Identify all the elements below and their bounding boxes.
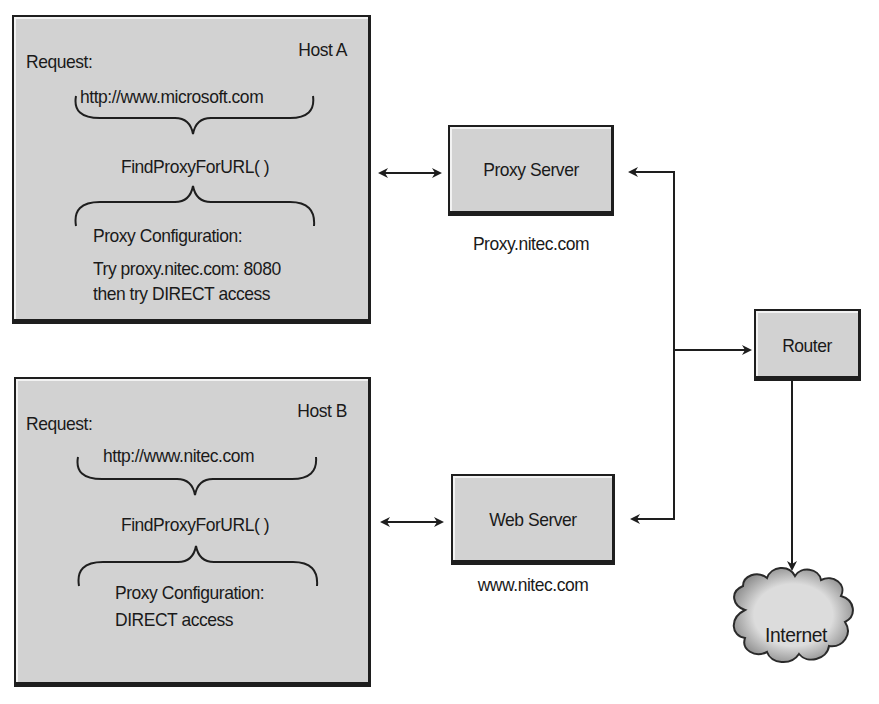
bus-to-proxy-arrow-icon [630,172,674,350]
internet-cloud-icon [734,568,853,662]
host-a-request-brace-icon [76,96,314,134]
internet-label: Internet [765,624,827,645]
host-a-config-brace-icon [76,186,315,226]
host-b-request-brace-icon [78,457,317,495]
bus-to-web-arrow-icon [632,350,674,519]
diagram-connectors [0,0,879,704]
host-b-config-brace-icon [79,546,318,586]
